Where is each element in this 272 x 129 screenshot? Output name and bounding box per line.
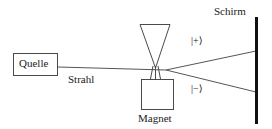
ket-minus-label: |−⟩ [191, 84, 203, 94]
ket-plus-label: |+⟩ [191, 36, 203, 46]
magnet-pole-triangle-icon [140, 25, 170, 69]
magnet-stem-right [158, 66, 161, 79]
magnet-box [142, 80, 174, 110]
magnet-label: Magnet [138, 113, 172, 124]
source-label: Quelle [19, 58, 48, 69]
magnet-stem-left [151, 66, 154, 79]
beam-label: Strahl [68, 74, 94, 85]
beam-line [58, 67, 166, 70]
beam-plus-line [166, 51, 256, 70]
magnet-pole-triangle-left-edge [140, 25, 156, 69]
screen-label: Schirm [214, 6, 246, 17]
diagram-canvas: Quelle Strahl Magnet Schirm |+⟩ |−⟩ [0, 0, 272, 129]
beam-minus-line [166, 70, 256, 92]
